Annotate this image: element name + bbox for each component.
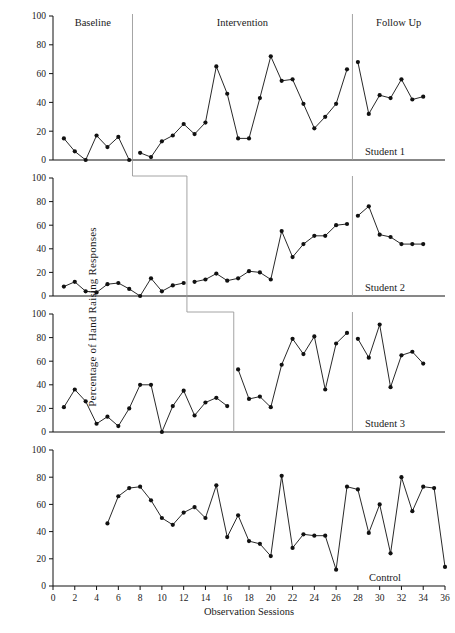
panel-label: Control [369,572,401,583]
x-tick-label: 34 [418,593,428,603]
data-point [410,242,414,246]
data-point [84,158,88,162]
data-point [432,486,436,490]
data-point [345,222,349,226]
data-point [443,565,447,569]
y-tick-label: 20 [37,127,47,137]
data-point [356,214,360,218]
y-tick-label: 20 [37,554,47,564]
data-line [140,56,347,157]
data-point [323,387,327,391]
data-point [258,542,262,546]
data-point [73,387,77,391]
data-point [138,383,142,387]
x-tick-label: 36 [440,593,450,603]
data-point [290,337,294,341]
y-tick-label: 100 [32,445,47,455]
data-line [238,333,347,407]
y-tick-label: 0 [41,427,46,437]
data-point [62,405,66,409]
x-tick-label: 12 [179,593,189,603]
panel-axes [53,178,445,296]
data-line [358,62,423,114]
panel-label: Student 3 [365,418,405,429]
data-point [138,485,142,489]
y-tick-label: 40 [37,380,47,390]
data-line [64,136,129,160]
data-point [149,383,153,387]
y-tick-label: 20 [37,268,47,278]
data-point [323,534,327,538]
data-point [127,287,131,291]
data-point [312,126,316,130]
data-point [334,102,338,106]
x-tick-label: 28 [353,593,363,603]
data-point [258,395,262,399]
data-point [301,242,305,246]
data-point [94,133,98,137]
y-tick-label: 40 [37,98,47,108]
x-tick-label: 22 [288,593,298,603]
data-point [345,485,349,489]
data-point [247,136,251,140]
y-tick-label: 40 [37,527,47,537]
data-point [399,242,403,246]
data-point [127,486,131,490]
data-point [203,516,207,520]
data-point [258,96,262,100]
data-point [269,277,273,281]
data-point [73,149,77,153]
y-tick-label: 100 [32,309,47,319]
data-point [138,151,142,155]
data-point [301,352,305,356]
phase-step-connector [187,296,234,312]
data-point [334,568,338,572]
data-point [378,93,382,97]
data-point [410,97,414,101]
data-point [105,145,109,149]
panel-student-1: 020406080100BaselineInterventionFollow U… [32,11,445,176]
chart-canvas: 020406080100BaselineInterventionFollow U… [0,0,455,633]
phase-step-connector [132,160,186,176]
data-point [388,96,392,100]
x-tick-label: 0 [51,593,56,603]
data-point [312,334,316,338]
data-point [301,102,305,106]
data-point [236,136,240,140]
multiple-baseline-chart: Percentage of Hand Raising Responses 020… [0,0,455,633]
data-point [171,283,175,287]
data-point [367,531,371,535]
x-tick-label: 32 [397,593,407,603]
y-tick-label: 60 [37,221,47,231]
data-point [192,280,196,284]
data-point [192,413,196,417]
y-tick-label: 40 [37,244,47,254]
data-point [225,279,229,283]
phase-label-baseline: Baseline [75,17,111,28]
x-tick-label: 18 [244,593,254,603]
y-tick-label: 80 [37,40,47,50]
x-tick-label: 14 [201,593,211,603]
data-point [160,289,164,293]
panel-label: Student 1 [365,146,405,157]
data-point [399,475,403,479]
data-point [105,415,109,419]
data-point [116,281,120,285]
data-point [356,337,360,341]
data-point [149,498,153,502]
data-point [290,255,294,259]
data-point [236,513,240,517]
data-point [421,485,425,489]
x-tick-label: 10 [157,593,167,603]
data-point [192,505,196,509]
data-point [171,404,175,408]
data-point [203,120,207,124]
data-point [182,389,186,393]
y-tick-label: 80 [37,197,47,207]
data-point [160,139,164,143]
data-point [171,133,175,137]
data-point [269,54,273,58]
data-point [269,405,273,409]
data-point [356,60,360,64]
data-point [312,234,316,238]
